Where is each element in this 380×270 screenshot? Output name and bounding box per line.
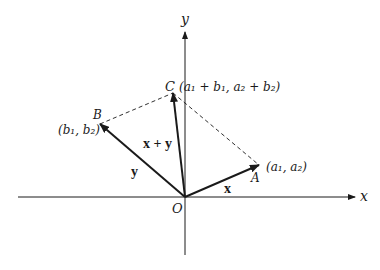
vector-addition-diagram: x y O A (a₁, a₂) B (b₁, b₂) C (a₁ + b₁, …: [0, 0, 380, 270]
vector-x-label: x: [224, 181, 231, 196]
vector-y-label: y: [131, 164, 138, 179]
point-c-coords: (a₁ + b₁, a₂ + b₂): [179, 80, 281, 94]
diagram-canvas: x y O A (a₁, a₂) B (b₁, b₂) C (a₁ + b₁, …: [0, 0, 380, 270]
origin-label: O: [172, 201, 183, 216]
point-b-label: B: [92, 108, 102, 122]
vector-x-arrow: [185, 165, 259, 197]
point-c-label: C: [165, 79, 175, 94]
y-axis-label: y: [180, 11, 190, 27]
vector-sum-label: x + y: [143, 136, 172, 151]
vector-y-arrow: [100, 124, 185, 197]
dashed-line-b-c: [100, 93, 173, 124]
point-a-label: A: [250, 171, 260, 185]
dashed-line-c-a: [173, 93, 259, 165]
point-a-coords: (a₁, a₂): [266, 160, 307, 174]
x-axis-label: x: [360, 188, 368, 204]
point-b-coords: (b₁, b₂): [58, 123, 100, 137]
vector-sum-arrow: [173, 93, 185, 197]
